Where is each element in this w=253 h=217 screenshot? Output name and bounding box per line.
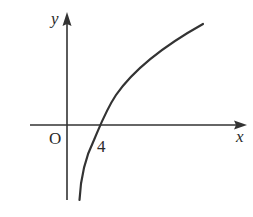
origin-label: O [49,129,61,148]
x-axis [30,121,247,130]
function-curve [80,24,204,200]
x-intercept-label: 4 [97,137,106,156]
y-axis-label: y [49,9,59,28]
y-axis [63,12,72,200]
x-axis-label: x [235,127,244,146]
function-graph: y x O 4 [0,0,253,217]
y-axis-arrow-icon [63,12,72,26]
